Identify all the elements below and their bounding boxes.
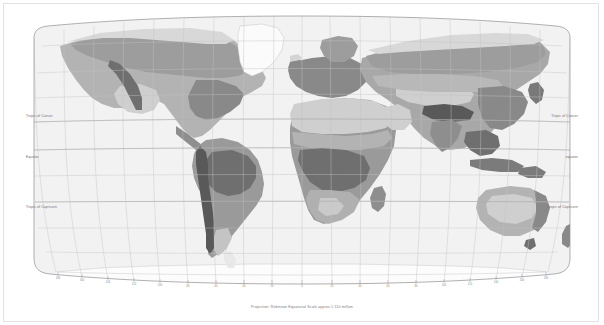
longitude-tick-label: 20: [271, 286, 274, 289]
world-map-figure: Tropic of Cancer Tropic of Cancer Equato…: [0, 0, 604, 325]
longitude-tick-label: 140: [494, 282, 498, 285]
longitude-tick-label: 160: [520, 280, 524, 283]
longitude-tick-label: 60: [387, 286, 390, 289]
longitude-tick-label: 120: [132, 284, 136, 287]
world-map-canvas: [0, 0, 604, 325]
label-tropic-of-cancer-right: Tropic of Cancer: [551, 115, 578, 118]
longitude-tick-label: 40: [359, 286, 362, 289]
label-equator-right: equator: [566, 156, 578, 159]
longitude-tick-label: 80: [187, 286, 190, 289]
longitude-tick-label: 100: [158, 285, 162, 288]
longitude-tick-label: 180: [544, 278, 548, 281]
longitude-tick-label: 0: [301, 286, 302, 289]
label-tropic-of-cancer-left: Tropic of Cancer: [26, 115, 53, 118]
longitude-tick-label: 60: [215, 286, 218, 289]
longitude-tick-label: 160: [80, 280, 84, 283]
longitude-tick-label: 140: [106, 282, 110, 285]
longitude-tick-label: 120: [468, 284, 472, 287]
longitude-tick-label: 180: [56, 278, 60, 281]
label-tropic-of-capricorn-left: Tropic of Capricorn: [26, 206, 57, 209]
region-sahara: [290, 98, 392, 134]
label-equator-left: Equator: [26, 156, 39, 159]
longitude-tick-label: 40: [243, 286, 246, 289]
longitude-tick-label: 20: [331, 286, 334, 289]
map-caption: Projection: Robinson Equatorial Scale ap…: [0, 306, 604, 310]
label-tropic-of-capricorn-right: Tropic of Capricorn: [547, 206, 578, 209]
longitude-tick-label: 80: [415, 286, 418, 289]
map-body: [0, 0, 604, 325]
longitude-tick-label: 100: [442, 285, 446, 288]
